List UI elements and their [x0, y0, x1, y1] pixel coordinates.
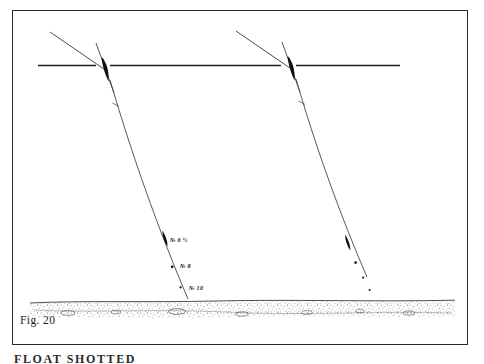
right-line-tick	[299, 101, 306, 105]
right-shot-2	[354, 261, 357, 264]
shot-label-1: № 6 ½	[170, 236, 188, 243]
left-main-line	[110, 80, 188, 299]
right-shot-1	[345, 235, 350, 251]
right-quill-float	[288, 56, 295, 81]
right-rig-upper-line	[236, 31, 290, 68]
gravel-riverbed	[30, 300, 455, 318]
left-line-tick	[113, 103, 120, 107]
left-shot-3	[180, 286, 182, 288]
plate-heading: FLOAT SHOTTED	[14, 352, 136, 364]
figure-caption: Fig. 20	[20, 314, 55, 326]
right-shot-4	[369, 289, 371, 291]
figure-plate: № 6 ½ № 8 № 10 Fig. 20 FLOAT SHOTTED	[0, 0, 484, 364]
right-main-line	[296, 79, 367, 277]
left-rig	[50, 32, 188, 299]
figure-artwork	[0, 0, 484, 364]
left-rig-upper-line	[50, 32, 104, 69]
left-quill-float	[102, 57, 109, 82]
shot-label-2: № 8	[180, 262, 191, 269]
right-rig	[236, 31, 371, 291]
left-shot-2	[171, 265, 174, 268]
right-shot-3	[362, 277, 364, 279]
shot-label-3: № 10	[189, 284, 203, 291]
